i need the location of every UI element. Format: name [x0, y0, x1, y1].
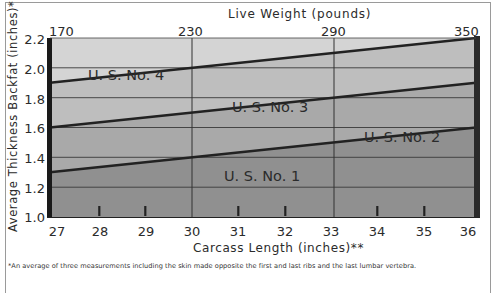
label-us-no-4: U. S. No. 4 [88, 67, 164, 83]
right-axis-bar [474, 36, 480, 218]
svg-text:30: 30 [184, 224, 201, 239]
svg-text:1.8: 1.8 [24, 92, 45, 107]
svg-text:27: 27 [49, 224, 66, 239]
label-us-no-1: U. S. No. 1 [224, 168, 300, 184]
svg-text:2.2: 2.2 [24, 32, 45, 47]
y-axis-title: Average Thickness Backfat (inches)* [6, 1, 20, 232]
svg-text:33: 33 [323, 224, 340, 239]
svg-text:34: 34 [369, 224, 386, 239]
y-tick-labels: 2.2 2.0 1.8 1.6 1.4 1.2 1.0 [24, 32, 45, 225]
svg-text:36: 36 [460, 224, 477, 239]
svg-text:32: 32 [277, 224, 294, 239]
svg-text:31: 31 [230, 224, 247, 239]
svg-text:28: 28 [92, 224, 109, 239]
top-tick-290: 290 [321, 24, 346, 39]
x-tick-labels: 27 28 29 30 31 32 33 34 35 36 [49, 224, 477, 239]
label-us-no-3: U. S. No. 3 [232, 99, 308, 115]
footnote: *An average of three measurements includ… [8, 262, 416, 270]
top-axis-title: Live Weight (pounds) [228, 7, 371, 21]
svg-text:29: 29 [138, 224, 155, 239]
left-axis-bar [47, 38, 52, 218]
x-axis-title: Carcass Length (inches)** [193, 241, 364, 255]
svg-text:1.6: 1.6 [24, 121, 45, 136]
label-us-no-2: U. S. No. 2 [364, 129, 440, 145]
top-tick-230: 230 [178, 24, 203, 39]
top-tick-170: 170 [49, 24, 74, 39]
svg-text:2.0: 2.0 [24, 62, 45, 77]
svg-text:1.2: 1.2 [24, 181, 45, 196]
svg-text:1.0: 1.0 [24, 210, 45, 225]
svg-text:1.4: 1.4 [24, 151, 45, 166]
svg-text:35: 35 [416, 224, 433, 239]
top-tick-350: 350 [454, 24, 479, 39]
